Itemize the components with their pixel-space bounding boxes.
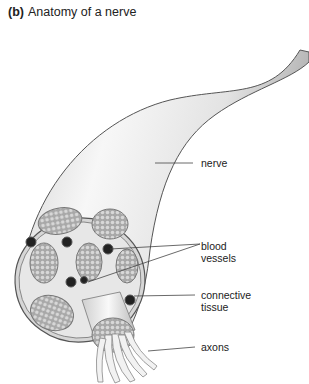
- label-axons: axons: [201, 341, 229, 353]
- nerve-illustration: [0, 0, 309, 384]
- label-connective-tissue: connective tissue: [201, 289, 251, 313]
- label-blood-vessels-line2: vessels: [201, 252, 236, 264]
- label-nerve: nerve: [201, 157, 227, 169]
- label-connective-tissue-line1: connective: [201, 289, 251, 301]
- label-connective-tissue-line2: tissue: [201, 301, 251, 313]
- label-blood-vessels: blood vessels: [201, 240, 236, 264]
- label-blood-vessels-line1: blood: [201, 240, 236, 252]
